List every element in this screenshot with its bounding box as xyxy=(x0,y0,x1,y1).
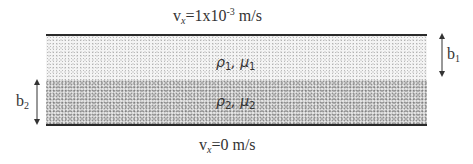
velocity-unit: m/s xyxy=(235,7,262,24)
top-wall xyxy=(46,34,427,36)
b1-symbol: b xyxy=(447,45,455,62)
upper-fluid-properties: ρ1, μ1 xyxy=(216,54,255,70)
b2-symbol: b xyxy=(16,92,24,109)
velocity-symbol: v xyxy=(173,7,181,24)
viscosity-symbol: μ xyxy=(240,54,249,70)
bottom-velocity-label: vx=0 m/s xyxy=(199,136,256,154)
separator: , xyxy=(231,93,240,109)
density-symbol: ρ xyxy=(216,93,225,109)
viscosity-index: 2 xyxy=(249,100,255,111)
density-symbol: ρ xyxy=(216,54,225,70)
viscosity-index: 1 xyxy=(249,61,255,72)
b1-label: b1 xyxy=(447,45,460,63)
separator: , xyxy=(231,54,240,70)
top-velocity-label: vx=1x10-3 m/s xyxy=(173,7,262,25)
b2-index: 2 xyxy=(24,100,29,111)
b1-index: 1 xyxy=(455,53,460,64)
velocity-symbol: v xyxy=(199,136,207,153)
bottom-wall xyxy=(46,124,427,126)
b2-label: b2 xyxy=(16,92,29,110)
velocity-exponent: -3 xyxy=(226,6,234,17)
velocity-value: =0 m/s xyxy=(211,136,255,153)
lower-fluid-properties: ρ2, μ2 xyxy=(216,93,255,109)
b2-dimension-arrow-icon xyxy=(33,79,41,125)
viscosity-symbol: μ xyxy=(240,93,249,109)
velocity-value: =1x10 xyxy=(185,7,226,24)
b1-dimension-arrow-icon xyxy=(438,33,446,77)
